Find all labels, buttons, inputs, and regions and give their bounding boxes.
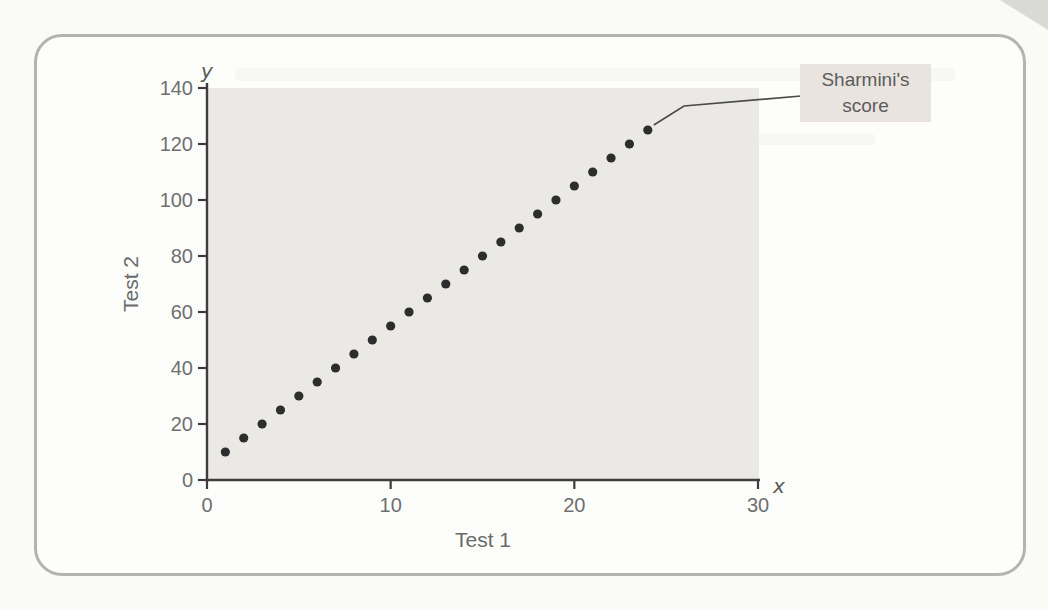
- data-point: [368, 335, 377, 344]
- y-axis-title: Test 2: [119, 256, 142, 312]
- annotation-label: Sharmini's score: [800, 64, 931, 122]
- annotation-line-1: Sharmini's: [821, 67, 909, 93]
- data-point: [460, 265, 469, 274]
- data-point: [423, 293, 432, 302]
- data-point: [625, 139, 634, 148]
- x-tick-label: 10: [380, 494, 402, 516]
- y-tick-label: 20: [171, 413, 193, 435]
- data-point: [258, 419, 267, 428]
- data-point: [588, 167, 597, 176]
- y-tick-label: 120: [160, 133, 193, 155]
- page-corner-artifact: [1000, 0, 1048, 30]
- data-point: [331, 363, 340, 372]
- data-point: [533, 209, 542, 218]
- data-point: [313, 377, 322, 386]
- data-point: [239, 433, 248, 442]
- y-axis-letter: y: [200, 59, 214, 83]
- y-tick-label: 40: [171, 357, 193, 379]
- y-tick-label: 0: [182, 469, 193, 491]
- x-axis-title: Test 1: [455, 528, 511, 551]
- data-point: [570, 181, 579, 190]
- data-point: [294, 391, 303, 400]
- x-axis-letter: x: [772, 474, 785, 498]
- data-point: [386, 321, 395, 330]
- data-point: [404, 307, 413, 316]
- data-point: [551, 195, 560, 204]
- y-tick-label: 80: [171, 245, 193, 267]
- x-tick-label: 20: [563, 494, 585, 516]
- y-tick-label: 60: [171, 301, 193, 323]
- x-tick-label: 30: [747, 494, 769, 516]
- data-point: [478, 251, 487, 260]
- y-tick-label: 100: [160, 189, 193, 211]
- data-point: [643, 125, 652, 134]
- data-point: [349, 349, 358, 358]
- x-tick-label: 0: [201, 494, 212, 516]
- y-tick-label: 140: [160, 77, 193, 99]
- data-point: [606, 153, 615, 162]
- plot-area: [208, 88, 759, 480]
- annotation-line-2: score: [842, 93, 888, 119]
- data-point: [221, 447, 230, 456]
- data-point: [496, 237, 505, 246]
- data-point: [515, 223, 524, 232]
- data-point: [276, 405, 285, 414]
- data-point: [441, 279, 450, 288]
